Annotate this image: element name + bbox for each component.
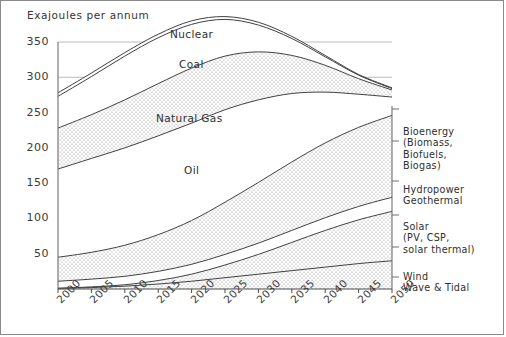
chart-frame: Exajoules per annum 50100150200250300350…: [0, 0, 504, 335]
y-axis-tick-label: 200: [15, 141, 49, 154]
series-label-bioenergy: Bioenergy (Biomass, Biofuels, Biogas): [403, 126, 454, 172]
series-label-solar: Solar (PV, CSP, solar thermal): [403, 221, 475, 255]
series-label-hydropower: Hydropower Geothermal: [403, 184, 464, 207]
y-axis-tick-label: 350: [15, 35, 49, 48]
y-axis-tick-label: 50: [15, 247, 49, 260]
series-label-nuclear: Nuclear: [170, 28, 213, 40]
series-label-coal: Coal: [179, 58, 204, 70]
series-label-wind: Wind Wave & Tidal: [403, 271, 469, 294]
series-label-natural-gas: Natural Gas: [156, 112, 223, 124]
y-axis-tick-label: 250: [15, 106, 49, 119]
y-axis-tick-label: 100: [15, 211, 49, 224]
right-tick-marks: [392, 109, 399, 277]
y-axis-tick-label: 150: [15, 176, 49, 189]
series-label-oil: Oil: [184, 164, 199, 176]
y-axis-tick-label: 300: [15, 70, 49, 83]
